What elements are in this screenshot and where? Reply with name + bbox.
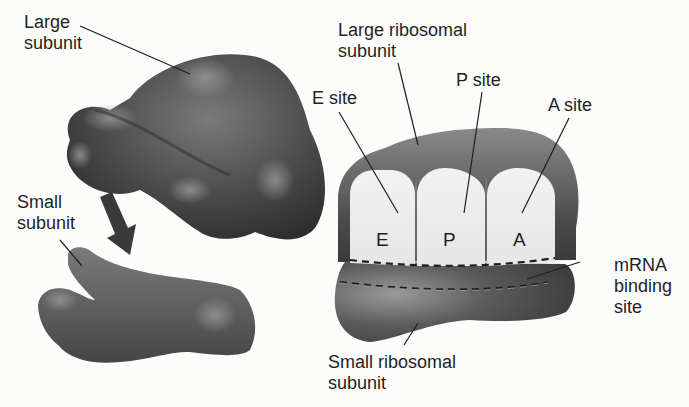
mrna-binding-site-label: mRNA binding site bbox=[614, 255, 672, 318]
large-ribosomal-subunit-label: Large ribosomal subunit bbox=[338, 20, 467, 62]
p-site-letter: P bbox=[443, 229, 456, 251]
label-line: Large ribosomal bbox=[338, 20, 467, 41]
small-ribosomal-subunit-shape bbox=[335, 262, 575, 342]
label-line: subunit bbox=[17, 213, 75, 234]
small-ribosomal-subunit-label: Small ribosomal subunit bbox=[328, 352, 456, 394]
label-line: subunit bbox=[328, 373, 456, 394]
label-line: subunit bbox=[24, 33, 82, 54]
label-line: Small bbox=[17, 192, 75, 213]
label-line: mRNA bbox=[614, 255, 672, 276]
label-line: Large bbox=[24, 12, 82, 33]
ribosome-diagram: Large subunit Small subunit Large riboso… bbox=[0, 0, 689, 407]
assembly-arrow-icon bbox=[100, 192, 136, 255]
e-site-label: E site bbox=[312, 88, 357, 109]
a-site-tile bbox=[487, 168, 555, 266]
a-site-label: A site bbox=[548, 95, 592, 116]
label-line: site bbox=[614, 297, 672, 318]
small-subunit-label: Small subunit bbox=[17, 192, 75, 234]
e-site-letter: E bbox=[376, 229, 389, 251]
label-line: subunit bbox=[338, 41, 467, 62]
p-site-tile bbox=[417, 168, 485, 266]
assembled-ribosome bbox=[335, 128, 579, 342]
label-line: Small ribosomal bbox=[328, 352, 456, 373]
a-site-letter: A bbox=[513, 229, 526, 251]
p-site-label: P site bbox=[456, 70, 501, 91]
large-subunit-label: Large subunit bbox=[24, 12, 82, 54]
e-site-tile bbox=[350, 170, 415, 266]
label-line: binding bbox=[614, 276, 672, 297]
small-subunit-shape bbox=[38, 247, 255, 362]
large-subunit-shape bbox=[67, 54, 325, 239]
